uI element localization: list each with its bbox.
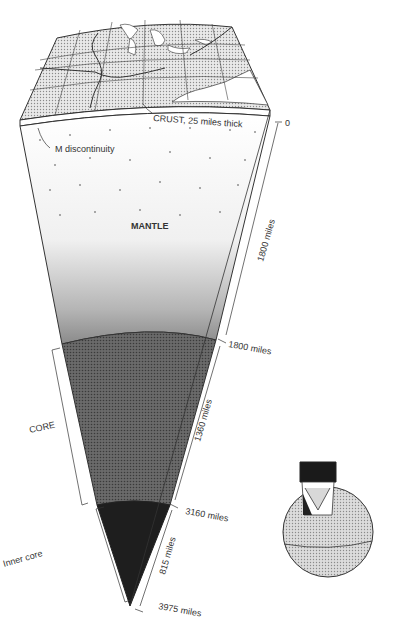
- depth-center: 3975 miles: [158, 601, 203, 618]
- earth-cross-section-diagram: CRUST, 25 miles thick M discontinuity MA…: [0, 0, 395, 626]
- outer-core-layer: [62, 332, 216, 505]
- depth-inner-core-thickness: 815 miles: [157, 535, 177, 575]
- surface-map: [20, 20, 270, 120]
- depth-mantle-thickness: 1800 miles: [255, 217, 277, 262]
- m-discontinuity-label: M discontinuity: [55, 144, 115, 154]
- inset-globe: [283, 462, 373, 577]
- depth-surface: 0: [285, 118, 290, 128]
- inner-core-label: Inner core: [2, 548, 44, 569]
- depth-mantle-base: 1800 miles: [228, 339, 273, 356]
- core-label: CORE: [28, 420, 56, 435]
- depth-inner-core-top: 3160 miles: [185, 506, 230, 523]
- inner-core-layer: [97, 501, 170, 606]
- mantle-label: MANTLE: [131, 221, 169, 231]
